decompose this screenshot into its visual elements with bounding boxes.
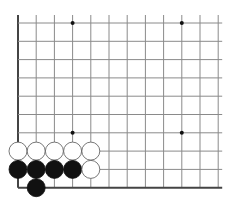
black-stone[interactable] xyxy=(45,160,63,178)
white-stone[interactable] xyxy=(64,142,82,160)
white-stone[interactable] xyxy=(27,142,45,160)
white-stone[interactable] xyxy=(82,142,100,160)
black-stone[interactable] xyxy=(27,160,45,178)
star-point xyxy=(71,21,75,25)
white-stone[interactable] xyxy=(82,160,100,178)
black-stone[interactable] xyxy=(64,160,82,178)
star-point xyxy=(180,21,184,25)
black-stone[interactable] xyxy=(9,160,27,178)
star-point xyxy=(71,131,75,135)
white-stone[interactable] xyxy=(9,142,27,160)
board-grid xyxy=(18,15,222,188)
black-stone[interactable] xyxy=(27,179,45,197)
go-board xyxy=(0,0,240,207)
white-stone[interactable] xyxy=(45,142,63,160)
star-point xyxy=(180,131,184,135)
